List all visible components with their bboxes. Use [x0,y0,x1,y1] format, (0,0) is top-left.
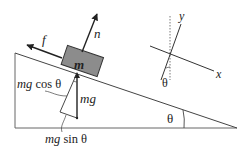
inclined-plane-diagram: θ m n f mg mg cos θ mg sin θ y x θ [0,0,247,155]
x-axis-line [150,46,214,71]
weight-sin-label: mg sin θ [45,132,87,146]
mass-label: m [74,57,84,72]
rotated-axes [150,16,214,80]
axes-angle-arc [166,67,170,68]
y-axis-label: y [178,9,185,23]
weight-cos-leader [45,91,67,96]
wedge-angle-arc [183,110,184,128]
weight-cos-label: mg cos θ [17,77,61,91]
friction-label: f [42,32,48,47]
wedge-angle-label: θ [167,111,173,126]
weight-sin-leader [61,115,66,132]
normal-force-label: n [94,26,101,41]
x-axis-label: x [215,67,222,81]
weight-label: mg [80,91,96,106]
axes-angle-label: θ [162,76,168,90]
